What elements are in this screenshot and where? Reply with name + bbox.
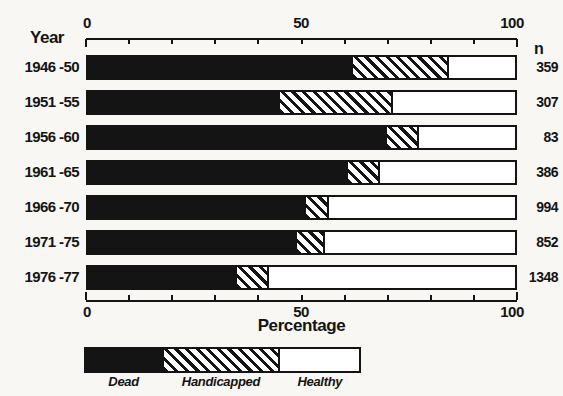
stacked-bar [86,195,517,220]
axis-tick [301,295,303,300]
year-label: 1966 -70 [0,198,79,215]
n-value: 386 [517,164,558,180]
segment-dead [88,197,306,218]
segment-dead [88,162,348,183]
stacked-bar [86,265,517,290]
axis-tick [516,39,518,47]
stacked-bar [86,55,517,80]
axis-tick [85,39,87,47]
segment-handicapped [280,92,391,113]
year-label: 1946 -50 [0,58,79,75]
x-axis-title: Percentage [86,316,517,336]
segment-healthy [391,92,515,113]
axis-tick [344,295,346,300]
segment-healthy [447,57,515,78]
stacked-bar [86,160,517,185]
segment-healthy [327,197,515,218]
segment-dead [88,92,280,113]
legend-swatch-healthy [278,349,359,371]
stacked-bar-chart-figure: Year n 0 50 100 1946 -503591951 -5530719… [0,0,563,396]
year-label: 1976 -77 [0,268,79,285]
n-value: 994 [517,199,558,215]
axis-tick [85,292,87,300]
axis-tick [344,39,346,44]
n-value: 852 [517,234,558,250]
year-label: 1951 -55 [0,93,79,110]
legend-swatch-dead [86,349,164,371]
top-axis-label-0: 0 [76,14,98,31]
segment-healthy [323,232,515,253]
legend-swatch-handicapped [164,349,278,371]
axis-tick [473,295,475,300]
n-value: 1348 [517,269,558,285]
n-value: 307 [517,94,558,110]
segment-handicapped [387,127,417,148]
axis-tick [214,295,216,300]
legend-label-healthy: Healthy [279,374,361,389]
axis-tick [128,39,130,44]
axis-tick [171,295,173,300]
axis-tick [387,295,389,300]
stacked-bar [86,90,517,115]
segment-handicapped [237,267,267,288]
segment-handicapped [348,162,378,183]
legend-label-dead: Dead [84,374,163,389]
year-column-header: Year [12,28,82,48]
axis-tick [171,39,173,44]
axis-tick [430,39,432,44]
top-axis-label-100: 100 [495,14,529,31]
axis-tick [430,295,432,300]
segment-healthy [267,267,515,288]
year-label: 1961 -65 [0,163,79,180]
year-label: 1956 -60 [0,128,79,145]
segment-handicapped [306,197,327,218]
legend-label-handicapped: Handicapped [163,374,279,389]
stacked-bar [86,125,517,150]
axis-tick [301,39,303,44]
axis-tick [257,295,259,300]
segment-healthy [417,127,515,148]
legend-labels: DeadHandicappedHealthy [84,374,361,389]
n-value: 83 [517,129,558,145]
n-column-header: n [524,40,554,58]
segment-dead [88,127,387,148]
legend-swatch-bar [84,347,361,373]
segment-handicapped [353,57,447,78]
segment-healthy [378,162,515,183]
year-label: 1971 -75 [0,233,79,250]
axis-tick [516,292,518,300]
axis-tick [128,295,130,300]
stacked-bar [86,230,517,255]
segment-dead [88,267,237,288]
axis-tick [473,39,475,44]
bottom-axis-line [86,300,517,302]
segment-dead [88,232,297,253]
segment-dead [88,57,353,78]
axis-tick [257,39,259,44]
axis-tick [214,39,216,44]
segment-handicapped [297,232,323,253]
top-axis-label-50: 50 [287,14,315,31]
axis-tick [387,39,389,44]
n-value: 359 [517,59,558,75]
